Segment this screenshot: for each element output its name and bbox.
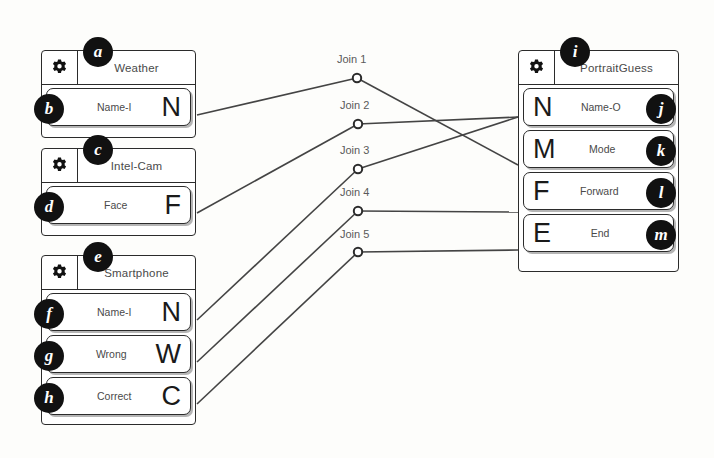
node-header-intel-cam: Intel-Cam [42,149,195,183]
callout-badge-i: i [560,37,590,67]
port-letter: F [524,178,550,205]
callout-badge-e: e [83,242,113,272]
port-letter: N [162,94,191,121]
join-node-5[interactable] [354,248,362,256]
callout-badge-b: b [34,94,64,124]
node-header-weather: Weather [42,51,195,85]
node-weather[interactable]: WeatherNName-I [41,50,196,138]
callout-badge-d: d [34,192,64,222]
node-intel-cam[interactable]: Intel-CamFFace [41,148,196,236]
callout-badge-j: j [646,94,676,124]
port-list-weather: NName-I [42,85,195,130]
node-header-portraitguess: PortraitGuess [519,51,678,85]
callout-badge-m: m [646,220,676,250]
join-label-1: Join 1 [337,53,366,65]
port-smartphone-wrong[interactable]: WWrong [46,335,191,373]
port-label: Name-I [47,306,162,318]
gear-icon[interactable] [519,51,555,84]
gear-icon[interactable] [42,51,78,84]
join-label-5: Join 5 [340,228,369,240]
port-letter: N [162,299,191,326]
diagram-canvas: WeatherNName-IIntel-CamFFaceSmartphoneNN… [0,0,714,458]
wire-out-2 [358,117,518,124]
port-letter: C [162,383,191,410]
join-node-3[interactable] [354,165,362,173]
wire-out-3 [358,117,518,169]
port-label: Correct [47,390,162,402]
wire-out-1 [357,78,518,165]
port-letter: E [524,220,551,247]
port-list-intel-cam: FFace [42,183,195,228]
port-smartphone-correct[interactable]: CCorrect [46,377,191,415]
wire-out-5 [358,250,518,252]
port-intel-cam-face[interactable]: FFace [46,186,191,224]
callout-badge-h: h [34,383,64,413]
callout-badge-k: k [646,136,676,166]
wire-in-5 [197,252,358,404]
join-node-2[interactable] [354,120,362,128]
callout-badge-l: l [646,178,676,208]
port-label: Face [47,199,165,211]
wire-in-3 [197,169,358,320]
port-letter: W [156,341,190,368]
wire-in-4 [197,211,358,362]
wire-in-1 [197,78,357,115]
gear-icon[interactable] [42,149,78,182]
port-weather-name-i[interactable]: NName-I [46,88,191,126]
node-smartphone[interactable]: SmartphoneNName-IWWrongCCorrect [41,255,196,425]
wire-out-4 [358,211,518,212]
port-smartphone-name-i[interactable]: NName-I [46,293,191,331]
node-header-smartphone: Smartphone [42,256,195,290]
wire-in-2 [197,124,358,213]
port-label: Name-I [47,101,162,113]
join-node-1[interactable] [353,74,361,82]
join-label-2: Join 2 [340,99,369,111]
port-list-smartphone: NName-IWWrongCCorrect [42,290,195,419]
port-letter: F [165,192,191,219]
port-letter: N [524,94,553,121]
join-label-3: Join 3 [340,144,369,156]
callout-badge-g: g [34,341,64,371]
callout-badge-a: a [83,37,113,67]
gear-icon[interactable] [42,256,78,289]
join-node-4[interactable] [354,207,362,215]
callout-badge-f: f [34,299,64,329]
callout-badge-c: c [83,135,113,165]
join-label-4: Join 4 [340,186,369,198]
port-letter: M [524,136,556,163]
